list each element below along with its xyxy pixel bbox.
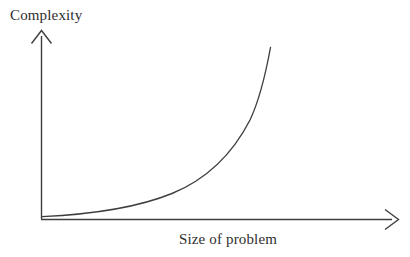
x-axis-label: Size of problem: [179, 232, 277, 247]
y-axis-label: Complexity: [10, 8, 82, 23]
plot-svg: [0, 0, 410, 257]
complexity-curve: [42, 48, 271, 217]
figure-canvas: Complexity Size of problem: [0, 0, 410, 257]
